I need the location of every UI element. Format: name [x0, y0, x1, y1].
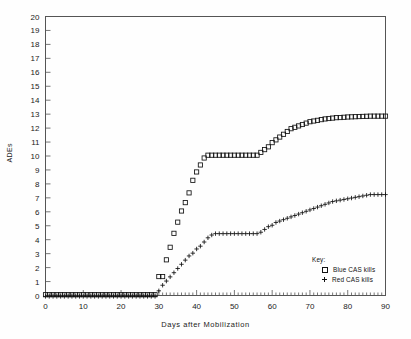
data-point-square: [187, 191, 191, 195]
x-tick-label: 50: [230, 302, 239, 311]
plus-marker-icon: [322, 277, 327, 282]
x-tick-label: 80: [343, 302, 352, 311]
x-tick-label: 0: [43, 302, 48, 311]
data-point-square: [183, 201, 187, 205]
y-tick-label: 14: [31, 96, 40, 105]
data-point-square: [176, 220, 180, 224]
data-point-square: [179, 209, 183, 213]
y-tick-label: 20: [31, 13, 40, 22]
x-tick-label: 40: [192, 302, 201, 311]
x-tick-label: 60: [268, 302, 277, 311]
y-tick-label: 11: [31, 138, 40, 147]
data-point-square: [168, 245, 172, 249]
y-tick-label: 1: [35, 278, 40, 287]
y-tick-label: 18: [31, 40, 40, 49]
x-tick-label: 70: [305, 302, 314, 311]
x-tick-label: 30: [154, 302, 163, 311]
legend-item-blue-cas-kills: Blue CAS kills: [322, 266, 375, 273]
legend-label-red: Red CAS kills: [332, 276, 373, 283]
y-tick-label: 4: [35, 236, 40, 245]
x-axis-title: Days after Mobilization: [0, 320, 411, 329]
x-tick-label: 90: [381, 302, 390, 311]
data-point-square: [172, 231, 176, 235]
x-tick-label: 20: [117, 302, 126, 311]
y-tick-label: 17: [31, 54, 40, 63]
y-axis-title: ADEs: [6, 149, 13, 163]
data-point-square: [198, 163, 202, 167]
data-point-square: [164, 258, 168, 262]
legend: Key: Blue CAS kills Red CAS kills: [312, 256, 396, 290]
data-point-square: [195, 170, 199, 174]
y-tick-label: 9: [35, 166, 40, 175]
y-tick-label: 3: [35, 250, 40, 259]
y-tick-label: 10: [31, 152, 40, 161]
x-tick-label: 10: [79, 302, 88, 311]
data-point-square: [191, 178, 195, 182]
plot-frame: [46, 17, 386, 296]
y-tick-label: 8: [35, 180, 40, 189]
y-tick-label: 2: [35, 264, 40, 273]
y-tick-label: 7: [35, 194, 40, 203]
y-tick-label: 16: [31, 68, 40, 77]
legend-title: Key:: [312, 256, 325, 263]
legend-item-red-cas-kills: Red CAS kills: [322, 276, 373, 283]
y-tick-label: 15: [31, 82, 40, 91]
y-tick-label: 13: [31, 110, 40, 119]
y-tick-label: 0: [35, 292, 40, 301]
legend-label-blue: Blue CAS kills: [333, 266, 375, 273]
y-tick-label: 5: [35, 222, 40, 231]
y-tick-label: 19: [31, 26, 40, 35]
y-tick-label: 6: [35, 208, 40, 217]
y-tick-label: 12: [31, 124, 40, 133]
square-marker-icon: [322, 267, 328, 273]
chart-figure: 0102030405060708090012345678910111213141…: [0, 0, 411, 339]
